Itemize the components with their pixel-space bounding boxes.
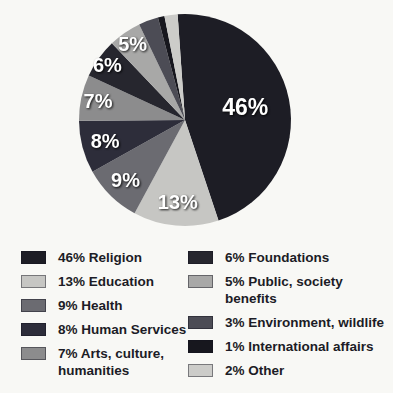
legend-label-religion: 46% Religion	[58, 249, 142, 266]
pie-percentage-label-arts-culture-humanities: 7%	[84, 90, 113, 112]
legend-item-foundations: 6% Foundations	[188, 249, 388, 266]
legend-item-environment-wildlife: 3% Environment, wildlife	[188, 314, 388, 331]
legend-swatch-public-society-benefits	[188, 275, 213, 288]
legend-swatch-environment-wildlife	[188, 316, 213, 329]
legend-item-public-society-benefits: 5% Public, society benefits	[188, 273, 388, 307]
legend-label-environment-wildlife: 3% Environment, wildlife	[225, 314, 384, 331]
legend-swatch-international-affairs	[188, 340, 213, 353]
legend-item-education: 13% Education	[21, 273, 193, 290]
legend-swatch-religion	[21, 251, 46, 264]
legend-item-human-services: 8% Human Services	[21, 321, 193, 338]
pie-percentage-label-health: 9%	[111, 169, 140, 191]
pie-chart: 46%13%9%8%7%6%5%	[0, 0, 393, 238]
pie-percentage-label-religion: 46%	[222, 94, 268, 120]
charitable-giving-pie-figure: 46%13%9%8%7%6%5% 46% Religion13% Educati…	[0, 0, 393, 393]
legend-swatch-health	[21, 299, 46, 312]
pie-percentage-label-public-society-benefits: 5%	[118, 33, 147, 55]
legend-label-foundations: 6% Foundations	[225, 249, 329, 266]
legend-swatch-human-services	[21, 323, 46, 336]
legend-column-right: 6% Foundations5% Public, society benefit…	[188, 249, 388, 386]
legend-label-other: 2% Other	[225, 362, 284, 379]
legend-swatch-other	[188, 364, 213, 377]
pie-percentage-label-education: 13%	[158, 191, 198, 213]
legend-item-international-affairs: 1% International affairs	[188, 338, 388, 355]
legend-label-health: 9% Health	[58, 297, 123, 314]
legend-item-other: 2% Other	[188, 362, 388, 379]
legend-label-education: 13% Education	[58, 273, 154, 290]
legend-item-arts-culture-humanities: 7% Arts, culture, humanities	[21, 345, 193, 379]
legend-label-human-services: 8% Human Services	[58, 321, 186, 338]
legend-column-left: 46% Religion13% Education9% Health8% Hum…	[21, 249, 193, 386]
legend-label-public-society-benefits: 5% Public, society benefits	[225, 273, 388, 307]
legend-swatch-education	[21, 275, 46, 288]
legend-swatch-foundations	[188, 251, 213, 264]
legend-label-international-affairs: 1% International affairs	[225, 338, 374, 355]
legend-label-arts-culture-humanities: 7% Arts, culture, humanities	[58, 345, 193, 379]
legend-item-health: 9% Health	[21, 297, 193, 314]
legend-item-religion: 46% Religion	[21, 249, 193, 266]
pie-percentage-label-human-services: 8%	[91, 130, 120, 152]
legend-swatch-arts-culture-humanities	[21, 347, 46, 360]
pie-percentage-label-foundations: 6%	[93, 54, 122, 76]
